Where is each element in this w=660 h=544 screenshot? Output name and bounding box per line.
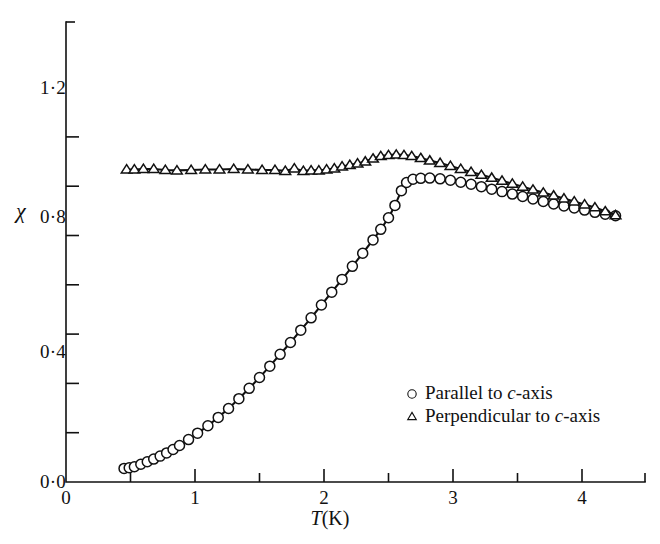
legend-label-perpendicular-before: Perpendicular to <box>425 405 555 426</box>
legend-entry-parallel: Parallel to c-axis <box>404 381 600 404</box>
y-axis-title: χ <box>16 198 26 224</box>
x-axis-title-unit: (K) <box>322 507 350 529</box>
plot-canvas <box>0 0 660 544</box>
x-axis-title-symbol: T <box>311 507 322 529</box>
x-tick-label-2: 2 <box>310 487 338 509</box>
legend-label-parallel-after: -axis <box>516 382 553 403</box>
legend-label-parallel-before: Parallel to <box>425 382 507 403</box>
y-tick-label-1-2: 1·2 <box>20 77 66 99</box>
series-parallel <box>119 173 620 473</box>
x-tick-label-1: 1 <box>181 487 209 509</box>
x-tick-label-4: 4 <box>568 487 596 509</box>
y-tick-label-0-4: 0·4 <box>20 341 66 363</box>
series-perpendicular <box>121 150 621 219</box>
legend: Parallel to c-axis Perpendicular to c-ax… <box>404 381 600 427</box>
circle-marker-icon <box>404 386 422 400</box>
legend-label-parallel: Parallel to c-axis <box>422 381 553 404</box>
legend-label-perpendicular-after: -axis <box>563 405 600 426</box>
y-tick-label-0-8: 0·8 <box>20 206 66 228</box>
legend-label-parallel-italic: c <box>507 382 515 403</box>
triangle-marker-icon <box>404 409 422 423</box>
x-tick-label-3: 3 <box>439 487 467 509</box>
figure-container: 1·2 0·8 0·4 0·0 0 1 2 3 4 χ T(K) Paralle… <box>0 0 660 544</box>
legend-label-perpendicular-italic: c <box>555 405 563 426</box>
legend-entry-perpendicular: Perpendicular to c-axis <box>404 404 600 427</box>
legend-label-perpendicular: Perpendicular to c-axis <box>422 404 600 427</box>
x-tick-label-0: 0 <box>52 487 80 509</box>
x-axis-title: T(K) <box>0 507 660 530</box>
